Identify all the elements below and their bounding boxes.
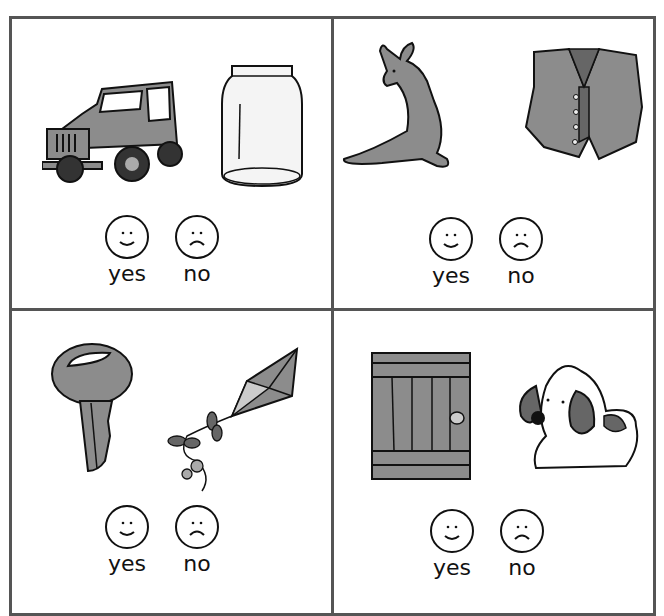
no-label: no	[508, 556, 535, 580]
no-option[interactable]: no	[498, 216, 544, 288]
no-option[interactable]: no	[499, 508, 545, 580]
key-icon	[50, 341, 135, 476]
jeep-icon	[42, 74, 187, 184]
sad-face-icon	[174, 504, 220, 550]
yes-option[interactable]: yes	[429, 508, 475, 580]
cell-key-kite: yes no	[12, 311, 334, 601]
yes-option[interactable]: yes	[428, 216, 474, 288]
vest-icon	[524, 47, 644, 167]
dog-icon	[506, 356, 646, 476]
happy-face-icon	[104, 214, 150, 260]
no-option[interactable]: no	[174, 214, 220, 286]
yes-option[interactable]: yes	[104, 214, 150, 286]
no-label: no	[183, 552, 210, 576]
yes-label: yes	[108, 552, 146, 576]
sad-face-icon	[499, 508, 545, 554]
door-icon	[370, 351, 472, 481]
no-label: no	[507, 264, 534, 288]
yes-option[interactable]: yes	[104, 504, 150, 576]
yes-label: yes	[433, 556, 471, 580]
happy-face-icon	[429, 508, 475, 554]
yes-label: yes	[432, 264, 470, 288]
cell-jeep-jar: yes no	[12, 19, 334, 309]
no-option[interactable]: no	[174, 504, 220, 576]
happy-face-icon	[428, 216, 474, 262]
no-label: no	[183, 262, 210, 286]
jar-icon	[220, 64, 305, 189]
kite-icon	[157, 341, 307, 506]
happy-face-icon	[104, 504, 150, 550]
yes-label: yes	[108, 262, 146, 286]
cell-door-dog: yes no	[334, 311, 656, 601]
sad-face-icon	[498, 216, 544, 262]
sad-face-icon	[174, 214, 220, 260]
cell-kangaroo-vest: yes no	[334, 19, 656, 309]
kangaroo-icon	[342, 41, 492, 186]
